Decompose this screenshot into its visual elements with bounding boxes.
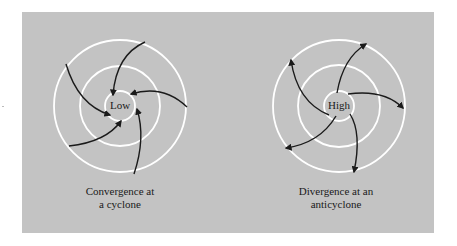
caption-line: Convergence at (40, 185, 200, 198)
high-pressure-label: High (324, 99, 354, 111)
anticyclone-caption: Divergence at an anticyclone (256, 185, 416, 211)
caption-line: Divergence at an (256, 185, 416, 198)
cyclone-caption: Convergence at a cyclone (40, 185, 200, 211)
caption-line: a cyclone (40, 198, 200, 211)
low-pressure-label: Low (105, 99, 135, 111)
caption-line: anticyclone (256, 198, 416, 211)
